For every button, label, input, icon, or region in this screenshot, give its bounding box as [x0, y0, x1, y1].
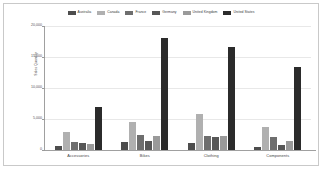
plot-wrapper: Sales Quantity 20,00015,00010,0005,0000 …	[4, 4, 320, 167]
y-axis-tick-label: 10,000	[16, 86, 42, 90]
x-axis-label-bikes: Bikes	[112, 153, 179, 158]
bar-clothing-united-states[interactable]	[228, 47, 235, 150]
bar-bikes-germany[interactable]	[145, 141, 152, 150]
chart-container: AustraliaCanadaFranceGermanyUnited Kingd…	[3, 3, 319, 166]
bar-clothing-france[interactable]	[204, 136, 211, 150]
bar-bikes-united-states[interactable]	[161, 38, 168, 150]
bar-components-germany[interactable]	[278, 145, 285, 150]
bar-components-united-kingdom[interactable]	[286, 141, 293, 150]
y-axis-tick-label: 0	[16, 148, 42, 152]
bar-groups	[45, 26, 311, 150]
bar-accessories-united-states[interactable]	[95, 107, 102, 150]
bar-clothing-australia[interactable]	[188, 143, 195, 150]
bar-components-canada[interactable]	[262, 127, 269, 150]
bar-accessories-france[interactable]	[71, 142, 78, 150]
y-axis-tick-label: 15,000	[16, 55, 42, 59]
bar-accessories-germany[interactable]	[79, 143, 86, 150]
plot-area	[45, 26, 311, 150]
y-axis-tickmark	[42, 150, 45, 151]
bar-components-france[interactable]	[270, 137, 277, 150]
y-axis-tick-label: 20,000	[16, 24, 42, 28]
x-axis-label-accessories: Accessories	[45, 153, 112, 158]
x-axis-label-components: Components	[245, 153, 312, 158]
bar-bikes-united-kingdom[interactable]	[153, 136, 160, 150]
bar-bikes-canada[interactable]	[129, 122, 136, 150]
bar-group-bikes	[112, 26, 179, 150]
bar-group-clothing	[178, 26, 245, 150]
bar-group-accessories	[45, 26, 112, 150]
y-axis-tick-labels: 20,00015,00010,0005,0000	[16, 4, 42, 167]
bar-components-australia[interactable]	[254, 147, 261, 150]
bar-bikes-france[interactable]	[137, 135, 144, 151]
bar-clothing-canada[interactable]	[196, 114, 203, 150]
bar-accessories-australia[interactable]	[55, 146, 62, 150]
bar-clothing-germany[interactable]	[212, 137, 219, 150]
bar-clothing-united-kingdom[interactable]	[220, 136, 227, 150]
gridline	[45, 150, 311, 151]
bar-components-united-states[interactable]	[294, 67, 301, 150]
x-axis-category-labels: AccessoriesBikesClothingComponents	[45, 153, 311, 158]
bar-group-components	[245, 26, 312, 150]
y-axis-tick-label: 5,000	[16, 117, 42, 121]
x-axis-label-clothing: Clothing	[178, 153, 245, 158]
bar-accessories-canada[interactable]	[63, 132, 70, 150]
bar-bikes-australia[interactable]	[121, 142, 128, 150]
bar-accessories-united-kingdom[interactable]	[87, 144, 94, 150]
